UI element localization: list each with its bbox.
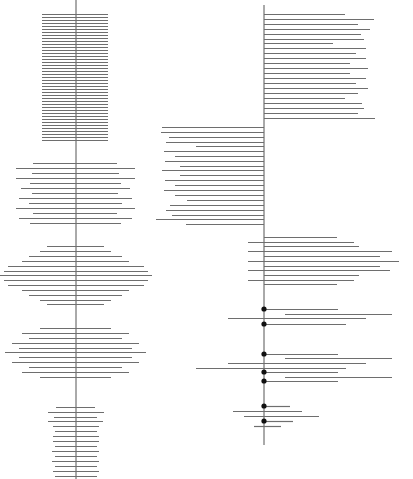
right-panel xyxy=(156,5,399,445)
left-narrow-block xyxy=(48,408,104,477)
dot-marker xyxy=(261,369,266,374)
dot-marker xyxy=(261,351,266,356)
dot-marker xyxy=(261,403,266,408)
dot-marker xyxy=(261,306,266,311)
right-dotted-block xyxy=(196,306,392,426)
left-panel xyxy=(0,0,152,479)
right-left-extending-block xyxy=(156,128,264,225)
right-mixed-block xyxy=(248,238,399,285)
left-uniform-block xyxy=(42,15,108,141)
right-right-extending-block xyxy=(264,15,375,119)
dot-marker xyxy=(261,418,266,423)
dot-marker xyxy=(261,378,266,383)
line-diagram xyxy=(0,0,413,479)
dot-marker xyxy=(261,321,266,326)
